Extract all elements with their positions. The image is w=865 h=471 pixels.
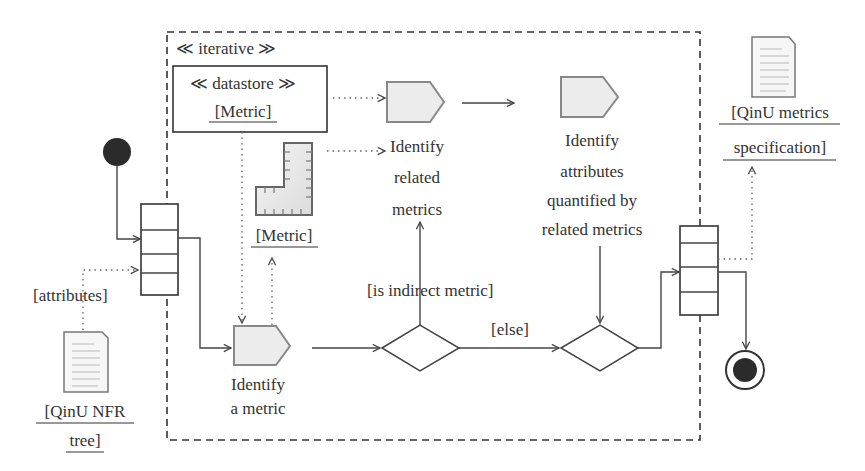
datastore-name: [Metric] (215, 102, 272, 121)
decision-node[interactable] (382, 325, 459, 371)
iterative-stereotype-label: ≪ iterative ≫ (176, 39, 276, 58)
action-label-line: related metrics (542, 220, 643, 239)
action-label-line: Identify (231, 375, 285, 394)
output-document-label-line: [QinU metrics (731, 103, 829, 122)
datastore-stereotype: ≪ datastore ≫ (190, 74, 296, 93)
document-icon (64, 332, 108, 392)
attributes-pin-label: [attributes] (33, 286, 108, 305)
merge-node[interactable] (561, 325, 638, 371)
ruler-metric-label: [Metric] (256, 226, 313, 245)
final-node[interactable] (726, 351, 764, 389)
action-label-line: metrics (392, 200, 442, 219)
action-label-line: attributes (560, 162, 623, 181)
document-icon (752, 37, 795, 97)
output-expansion-node[interactable] (680, 226, 718, 315)
action-identify-attributes[interactable]: Identify attributes quantified by relate… (542, 77, 643, 239)
input-expansion-node[interactable] (141, 204, 178, 295)
input-document-label-line: tree] (69, 431, 100, 450)
guard-is-indirect: [is indirect metric] (367, 281, 494, 300)
action-label-line: related (394, 168, 441, 187)
output-document-object[interactable]: [QinU metrics specification] (719, 103, 840, 160)
datastore-node[interactable]: ≪ datastore ≫ [Metric] (173, 66, 327, 132)
initial-node[interactable] (103, 138, 131, 166)
action-identify-a-metric[interactable]: Identify a metric (230, 326, 290, 418)
action-identify-related-metrics[interactable]: Identify related metrics (387, 82, 444, 219)
action-label-line: Identify (390, 137, 444, 156)
output-document-label-line: specification] (734, 138, 827, 157)
ruler-icon (256, 143, 312, 215)
guard-else: [else] (491, 320, 529, 339)
input-document-object[interactable]: [QinU NFR tree] (36, 402, 134, 452)
action-label-line: Identify (565, 131, 619, 150)
action-label-line: a metric (230, 399, 286, 418)
action-label-line: quantified by (547, 191, 638, 210)
input-document-label-line: [QinU NFR (45, 402, 126, 421)
activity-diagram: ≪ iterative ≫ ≪ datastore ≫ [Metric] (0, 0, 865, 471)
